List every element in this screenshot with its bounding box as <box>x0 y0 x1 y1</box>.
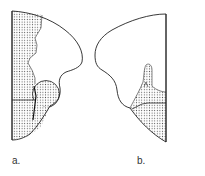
figure-b <box>95 14 166 142</box>
figure-a-label: a. <box>12 155 20 166</box>
figure-a <box>12 11 82 140</box>
diagram-canvas <box>0 0 205 176</box>
figure-b-label: b. <box>137 155 145 166</box>
